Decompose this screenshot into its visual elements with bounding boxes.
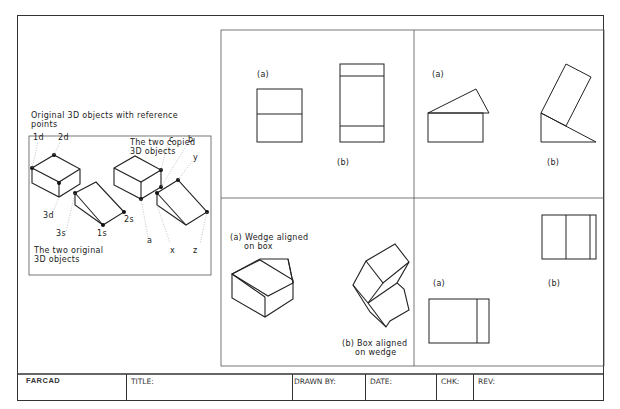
point-3d: 3d (43, 211, 54, 221)
title-block-brand-cell: FARCAD (17, 374, 127, 401)
point-x: x (170, 246, 175, 256)
box-aligned-on-wedge (353, 244, 409, 327)
copied-label-line2: 3D objects (130, 147, 176, 157)
point-c: c (169, 135, 174, 145)
point-1d: 1d (33, 133, 44, 143)
copied-wedge-3d (157, 180, 207, 225)
top-right-view-a (428, 89, 489, 142)
left-heading-line2: points (31, 120, 57, 130)
original-box-3d (32, 155, 80, 197)
point-2d: 2d (58, 133, 69, 143)
chk-label: CHK: (441, 377, 459, 386)
copied-box-3d (114, 156, 161, 199)
point-b: b (188, 135, 193, 145)
title-block-title-cell[interactable]: TITLE: (127, 374, 293, 401)
drawn-by-label: DRAWN BY: (294, 377, 336, 386)
bottom-right-view-a (429, 299, 489, 343)
top-left-label-a: (a) (257, 70, 269, 80)
bottom-left-label-a-line2: on box (244, 242, 273, 252)
bottom-right-label-a: (a) (433, 279, 445, 289)
title-block-date-cell[interactable]: DATE: (366, 374, 437, 401)
original-wedge-3d (75, 182, 124, 225)
point-1s: 1s (97, 229, 107, 239)
original-label-line2: 3D objects (34, 255, 80, 265)
point-z: z (193, 246, 198, 256)
title-block-rev-cell[interactable]: REV: (474, 374, 604, 401)
point-y: y (193, 153, 198, 163)
top-left-view-a (257, 89, 302, 142)
point-2s: 2s (124, 215, 134, 225)
title-block-chk-cell[interactable]: CHK: (437, 374, 474, 401)
top-right-view-b (541, 64, 596, 142)
rev-label: REV: (478, 377, 495, 386)
point-3s: 3s (56, 229, 66, 239)
bottom-right-view-b (542, 215, 596, 259)
title-block-drawn-by-cell[interactable]: DRAWN BY: (292, 374, 366, 401)
point-a: a (147, 236, 152, 246)
date-label: DATE: (370, 377, 392, 386)
title-label: TITLE: (131, 377, 154, 386)
panel-grid (221, 30, 604, 366)
brand-logo: FARCAD (26, 376, 60, 385)
bottom-right-label-b: (b) (548, 279, 560, 289)
top-right-label-a: (a) (432, 70, 444, 80)
top-left-view-b (340, 64, 384, 142)
top-right-label-b: (b) (547, 158, 559, 168)
top-left-label-b: (b) (337, 158, 349, 168)
bottom-left-label-b-line2: on wedge (355, 348, 396, 358)
wedge-aligned-on-box (232, 259, 293, 317)
reference-point-markers (30, 153, 209, 227)
drawing-canvas (0, 0, 620, 409)
